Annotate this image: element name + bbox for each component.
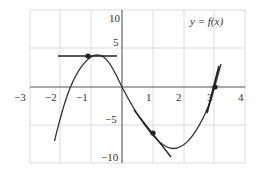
- point-tangent-mid: [150, 130, 155, 135]
- svg-text:10: 10: [109, 12, 121, 24]
- svg-text:5: 5: [113, 36, 119, 48]
- svg-text:1: 1: [146, 91, 152, 103]
- svg-text:4: 4: [238, 91, 244, 103]
- function-label: y = f(x): [189, 15, 223, 28]
- svg-text:−1: −1: [76, 91, 88, 103]
- point-local-max: [85, 53, 90, 58]
- function-graph: −3 −2 −1 1 2 3 4 10 5 −5 −10 y = f(x): [0, 0, 261, 171]
- svg-text:−5: −5: [105, 113, 117, 125]
- svg-text:−3: −3: [14, 91, 26, 103]
- svg-text:2: 2: [176, 91, 182, 103]
- point-root: [212, 84, 217, 89]
- tangent-line-root: [207, 66, 219, 113]
- svg-text:−10: −10: [101, 151, 119, 163]
- svg-text:−2: −2: [45, 91, 57, 103]
